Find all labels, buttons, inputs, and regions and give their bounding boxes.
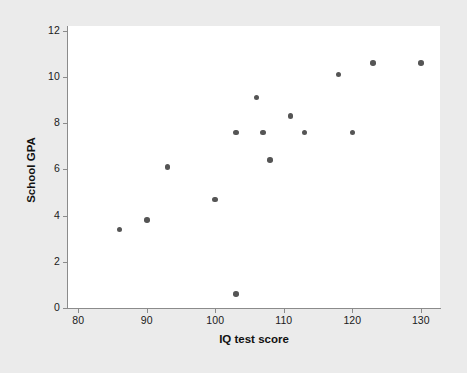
data-point [267, 157, 273, 163]
scatter-plot-figure: 8090100110120130 024681012 IQ test score… [0, 0, 467, 373]
data-point [233, 291, 239, 297]
y-axis-label: School GPA [0, 110, 62, 230]
y-tick-mark [63, 262, 67, 263]
y-axis-line [67, 26, 68, 309]
x-tick-mark [352, 309, 353, 313]
x-tick-label: 90 [127, 314, 167, 326]
x-tick-label: 120 [332, 314, 372, 326]
y-tick-label: 2 [22, 255, 60, 267]
x-axis-label: IQ test score [68, 333, 440, 345]
x-tick-mark [284, 309, 285, 313]
data-point [165, 164, 171, 170]
y-tick-mark [63, 123, 67, 124]
x-tick-mark [147, 309, 148, 313]
y-tick-label: 0 [22, 301, 60, 313]
data-point [370, 60, 376, 66]
y-tick-label: 10 [22, 70, 60, 82]
y-tick-mark [63, 216, 67, 217]
x-tick-mark [215, 309, 216, 313]
data-point [144, 217, 150, 223]
x-tick-label: 80 [58, 314, 98, 326]
y-tick-mark [63, 31, 67, 32]
plot-area [68, 26, 440, 308]
x-axis-line [67, 308, 441, 309]
y-tick-mark [63, 308, 67, 309]
y-tick-mark [63, 77, 67, 78]
x-tick-mark [78, 309, 79, 313]
y-tick-label: 12 [22, 24, 60, 36]
x-tick-label: 110 [264, 314, 304, 326]
x-tick-label: 130 [401, 314, 441, 326]
y-tick-mark [63, 169, 67, 170]
data-point [350, 130, 356, 136]
y-axis-label-text: School GPA [25, 137, 37, 203]
data-point [418, 60, 424, 66]
x-tick-label: 100 [195, 314, 235, 326]
x-tick-mark [421, 309, 422, 313]
data-point [233, 130, 239, 136]
data-point [260, 130, 266, 136]
